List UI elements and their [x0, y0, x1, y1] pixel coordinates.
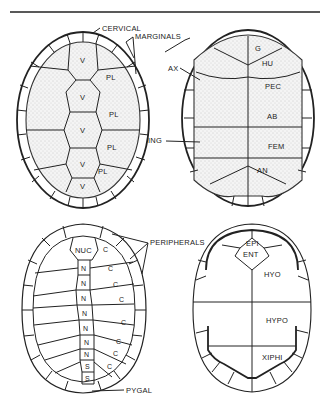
label-g: G	[255, 44, 261, 53]
label-n-3: N	[81, 295, 86, 302]
label-hypo: HYPO	[266, 316, 288, 325]
label-ab: AB	[267, 112, 277, 121]
label-s-2: S	[85, 375, 90, 382]
label-c-5: C	[121, 319, 126, 326]
plastron-bones-panel: EPI ENT HYO HYPO XIPHI	[193, 224, 311, 392]
carapace-scutes-panel: V V V V V PL PL PL PL CERVICAL MARGINALS	[17, 24, 190, 208]
label-v-3: V	[80, 126, 85, 135]
label-s-1: S	[85, 363, 90, 370]
label-peripherals: PERIPHERALS	[150, 238, 205, 247]
label-n-4: N	[82, 310, 87, 317]
label-pl-3: PL	[107, 143, 117, 152]
label-pl-1: PL	[106, 73, 116, 82]
label-c-3: C	[113, 281, 118, 288]
label-an: AN	[257, 166, 268, 175]
label-pec: PEC	[265, 82, 281, 91]
label-hyo: HYO	[264, 270, 281, 279]
label-n-5: N	[83, 325, 88, 332]
label-c-4: C	[119, 296, 124, 303]
label-ing: ING	[148, 136, 162, 145]
turtle-shell-diagram: V V V V V PL PL PL PL CERVICAL MARGINALS	[0, 0, 334, 413]
label-n-7: N	[84, 351, 89, 358]
label-pl-4: PL	[98, 167, 108, 176]
carapace-bones-panel: NUC N N N N N N N S S C C C C C C C C PE…	[22, 224, 205, 395]
label-c-8: C	[107, 363, 112, 370]
label-nuc: NUC	[75, 246, 92, 255]
label-epi: EPI	[246, 239, 259, 248]
label-c-2: C	[108, 265, 113, 272]
label-fem: FEM	[268, 142, 284, 151]
label-n-1: N	[81, 265, 86, 272]
label-v-1: V	[80, 56, 85, 65]
label-c-6: C	[116, 338, 121, 345]
label-v-5: V	[80, 182, 85, 191]
label-c-7: C	[113, 350, 118, 357]
label-ax: AX	[168, 64, 178, 73]
label-v-2: V	[80, 93, 85, 102]
label-n-6: N	[84, 339, 89, 346]
label-n-2: N	[81, 280, 86, 287]
label-v-4: V	[80, 160, 85, 169]
plastron-scutes-panel: G HU PEC AB FEM AN AX ING	[148, 30, 314, 207]
label-marginals: MARGINALS	[135, 32, 181, 41]
label-ent: ENT	[243, 250, 259, 259]
label-hu: HU	[262, 59, 273, 68]
label-c-1: C	[103, 246, 108, 253]
label-pl-2: PL	[109, 110, 119, 119]
label-xiphi: XIPHI	[262, 353, 283, 362]
label-pygal: PYGAL	[126, 386, 152, 395]
